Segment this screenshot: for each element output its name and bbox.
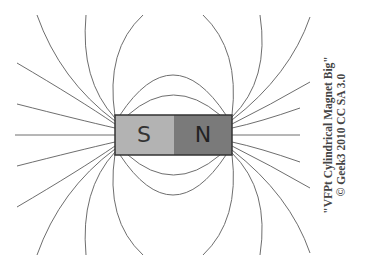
credit-title: "VFPt Cylindrical Magnet Big" xyxy=(322,56,335,213)
credit-license: © Geek3 2010 CC SA 3.0 xyxy=(335,56,348,213)
north-pole-label: N xyxy=(183,120,223,150)
credit-text: "VFPt Cylindrical Magnet Big" © Geek3 20… xyxy=(322,56,348,213)
south-pole-label: S xyxy=(124,120,164,150)
magnet-field-diagram: S N "VFPt Cylindrical Magnet Big" © Geek… xyxy=(0,0,382,271)
